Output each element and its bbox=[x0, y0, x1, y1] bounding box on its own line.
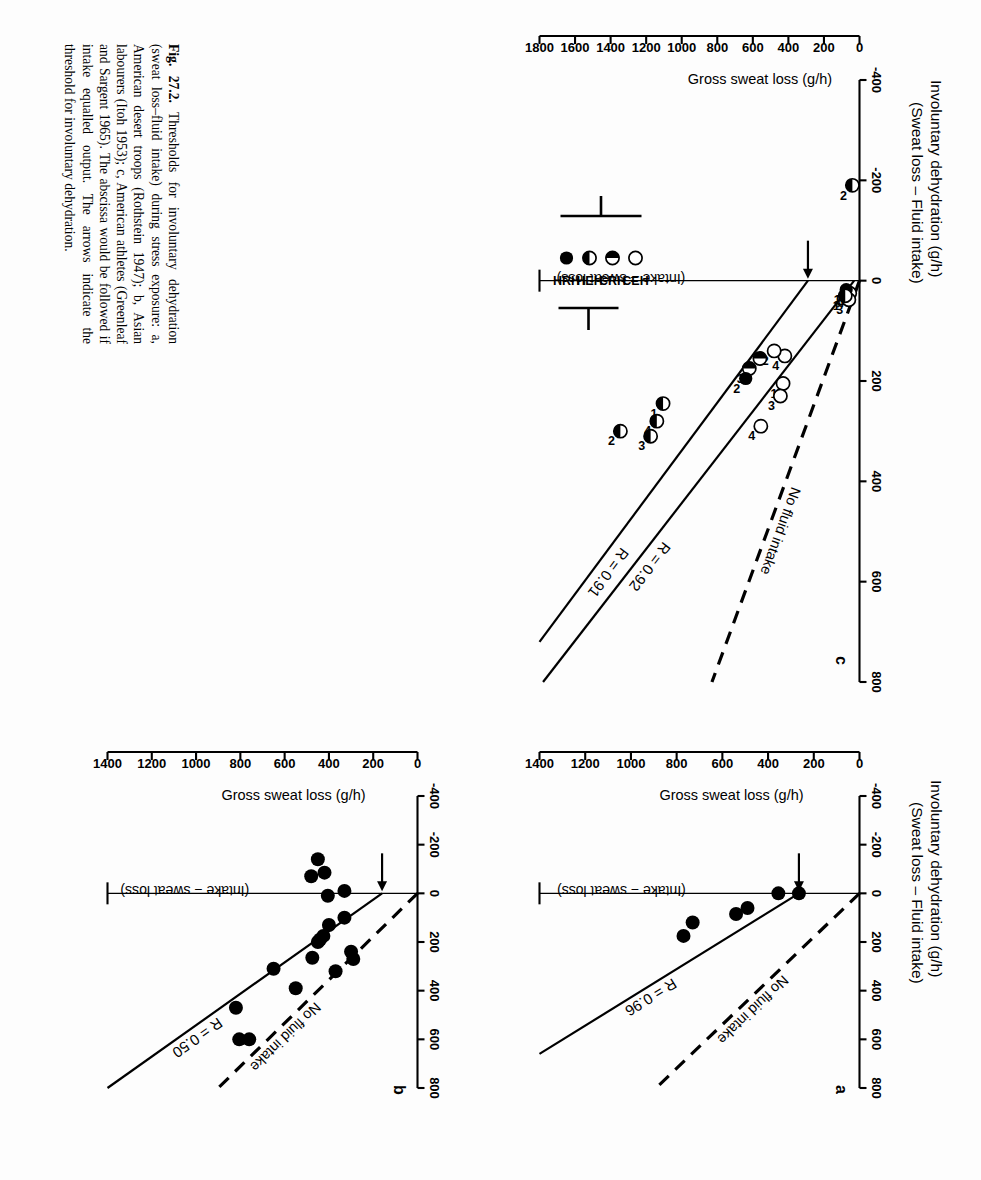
data-point bbox=[613, 425, 626, 438]
data-point bbox=[650, 415, 663, 428]
x-axis-tick-label: 600 bbox=[711, 756, 733, 771]
panel-c-letter: c bbox=[831, 656, 849, 665]
data-point bbox=[845, 179, 858, 192]
data-point bbox=[685, 916, 699, 930]
y-axis-tick-label: -400 bbox=[426, 783, 441, 809]
data-point bbox=[337, 884, 351, 898]
data-point-label: 2 bbox=[733, 382, 740, 396]
panel-b: -400-2000200400600800(Intake = sweat los… bbox=[31, 760, 451, 1150]
figure-page: Involuntary dehydration (g/h) (Sweat los… bbox=[0, 0, 981, 1180]
panel-b-letter: b bbox=[389, 1085, 407, 1095]
data-point bbox=[656, 397, 669, 410]
data-point bbox=[328, 964, 342, 978]
x-axis-tick-label: 1200 bbox=[631, 40, 660, 55]
y-axis-tick-label: -200 bbox=[426, 832, 441, 858]
data-point-label: 2 bbox=[839, 189, 846, 203]
y-title-line2: (Sweat loss – Fluid intake) bbox=[906, 780, 925, 984]
data-point bbox=[767, 344, 780, 357]
y-axis-tick-label: 200 bbox=[868, 931, 883, 953]
intake-equals-sweat-loss-label: (Intake = sweat loss) bbox=[557, 883, 686, 899]
x-axis-title: Gross sweat loss (g/h) bbox=[687, 71, 831, 87]
data-point bbox=[320, 889, 334, 903]
x-axis-tick-label: 800 bbox=[665, 756, 687, 771]
x-axis-tick-label: 200 bbox=[362, 756, 384, 771]
y-axis-tick-label: 800 bbox=[426, 1077, 441, 1099]
data-point bbox=[773, 389, 786, 402]
x-axis-tick-label: 1800 bbox=[525, 40, 554, 55]
figure-caption: Fig. 27.2. Thresholds for involuntary de… bbox=[60, 44, 181, 344]
y-axis-tick-label: 0 bbox=[868, 277, 883, 284]
x-axis-title: Gross sweat loss (g/h) bbox=[221, 787, 365, 803]
data-point bbox=[310, 935, 324, 949]
legend: CEHCRHHEHHRH bbox=[552, 196, 648, 330]
y-axis-tick-label: 800 bbox=[868, 671, 883, 693]
data-point-label: 1 bbox=[832, 299, 839, 313]
data-point-label: 3 bbox=[638, 439, 645, 453]
x-axis-tick-label: 1200 bbox=[137, 756, 166, 771]
data-point bbox=[228, 1001, 242, 1015]
no-fluid-intake-label: No fluid intake bbox=[247, 999, 324, 1075]
rotated-figure-body: Involuntary dehydration (g/h) (Sweat los… bbox=[0, 0, 981, 1180]
x-axis-tick-label: 0 bbox=[855, 40, 862, 55]
panel-c: Involuntary dehydration (g/h) (Sweat los… bbox=[511, 44, 941, 744]
data-point bbox=[838, 289, 851, 302]
x-axis-tick-label: 0 bbox=[413, 756, 420, 771]
y-axis-tick-label: 400 bbox=[868, 470, 883, 492]
data-point bbox=[304, 869, 318, 883]
data-point bbox=[676, 929, 690, 943]
y-axis-tick-label: 0 bbox=[426, 890, 441, 897]
panel-a: Involuntary dehydration (g/h) (Sweat los… bbox=[511, 760, 941, 1150]
x-axis-tick-label: 600 bbox=[741, 40, 763, 55]
y-axis-tick-label: 200 bbox=[868, 370, 883, 392]
data-point bbox=[776, 377, 789, 390]
x-axis-tick-label: 200 bbox=[813, 40, 835, 55]
panel-a-y-axis-title: Involuntary dehydration (g/h) (Sweat los… bbox=[906, 780, 945, 984]
x-axis-tick-label: 1400 bbox=[525, 756, 554, 771]
legend-marker-hrh bbox=[559, 251, 572, 264]
regression-1-line bbox=[543, 281, 854, 682]
y-axis-tick-label: -400 bbox=[868, 783, 883, 809]
data-point bbox=[317, 866, 331, 880]
no-fluid-intake-line bbox=[711, 281, 859, 682]
y-title-line2: (Sweat loss – Fluid intake) bbox=[906, 80, 925, 284]
x-axis-title: Gross sweat loss (g/h) bbox=[659, 787, 803, 803]
intake-equals-sweat-loss-label: (Intake = sweat loss) bbox=[120, 883, 249, 899]
data-point bbox=[305, 951, 319, 965]
y-axis-tick-label: 600 bbox=[868, 1028, 883, 1050]
y-axis-tick-label: 0 bbox=[868, 890, 883, 897]
threshold-arrow-head bbox=[802, 269, 812, 279]
data-point-label: 4 bbox=[772, 359, 779, 373]
legend-marker-crh bbox=[605, 251, 618, 264]
y-axis-tick-label: -200 bbox=[868, 167, 883, 193]
data-point bbox=[729, 907, 743, 921]
x-axis-tick-label: 1000 bbox=[616, 756, 645, 771]
panel-c-plot: -400-2000200400600800(Intake = sweat los… bbox=[513, 44, 893, 744]
x-axis-tick-label: 1000 bbox=[667, 40, 696, 55]
no-fluid-intake-line bbox=[218, 893, 417, 1088]
data-point bbox=[754, 420, 767, 433]
x-axis-tick-label: 400 bbox=[757, 756, 779, 771]
figure-number: Fig. 27.2. bbox=[165, 44, 180, 103]
data-point-label: 2 bbox=[607, 434, 614, 448]
x-axis-tick-label: 400 bbox=[777, 40, 799, 55]
y-axis-tick-label: 600 bbox=[868, 571, 883, 593]
y-axis-tick-label: 600 bbox=[426, 1028, 441, 1050]
y-title-line1: Involuntary dehydration (g/h) bbox=[926, 80, 945, 284]
regression-line bbox=[539, 893, 798, 1054]
x-axis-tick-label: 1600 bbox=[560, 40, 589, 55]
figure-caption-text: Thresholds for involuntary dehydration (… bbox=[62, 44, 181, 344]
y-axis-tick-label: 200 bbox=[426, 931, 441, 953]
threshold-arrow-head bbox=[377, 881, 387, 891]
x-axis-tick-label: 800 bbox=[706, 40, 728, 55]
data-point bbox=[310, 852, 324, 866]
y-axis-tick-label: 800 bbox=[868, 1077, 883, 1099]
data-point bbox=[644, 430, 657, 443]
y-axis-tick-label: 400 bbox=[426, 980, 441, 1002]
y-axis-tick-label: -200 bbox=[868, 832, 883, 858]
panel-a-letter: a bbox=[831, 1085, 849, 1094]
data-point-label: 4 bbox=[748, 429, 755, 443]
data-point bbox=[753, 352, 766, 365]
data-point bbox=[771, 886, 785, 900]
y-axis-tick-label: -400 bbox=[868, 67, 883, 93]
data-point bbox=[791, 886, 805, 900]
